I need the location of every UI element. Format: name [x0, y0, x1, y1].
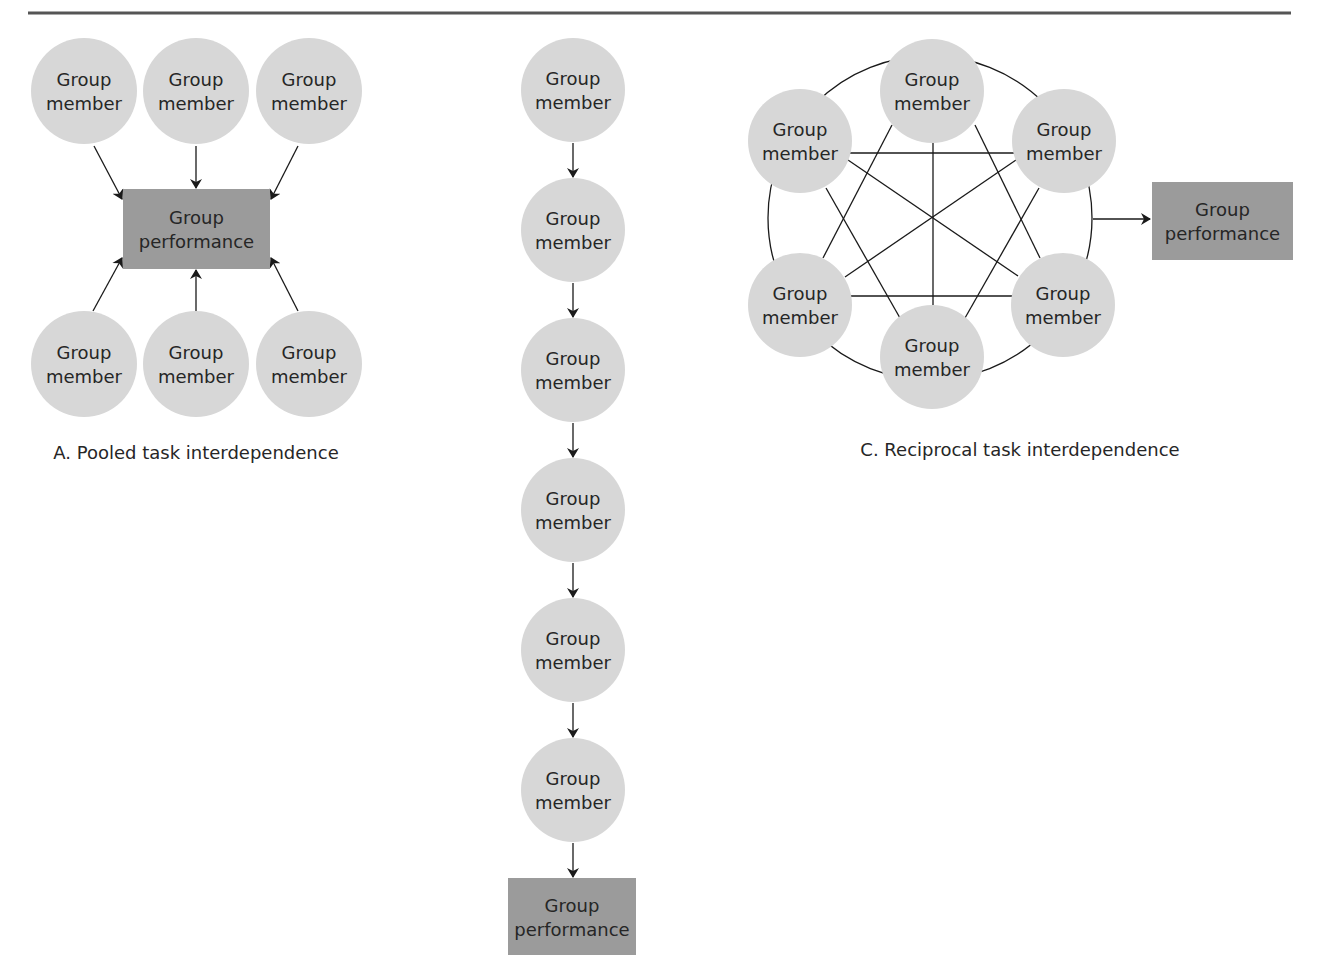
group-member-node: Groupmember — [31, 38, 137, 144]
member-circle — [1011, 253, 1115, 357]
member-circle — [1012, 89, 1116, 193]
diagram-sequential: GroupmemberGroupmemberGroupmemberGroupme… — [508, 38, 636, 955]
caption-pooled: A. Pooled task interdependence — [53, 442, 338, 463]
group-member-node: Groupmember — [1012, 89, 1116, 193]
group-member-node: Groupmember — [143, 311, 249, 417]
group-member-node: Groupmember — [748, 253, 852, 357]
group-member-node: Groupmember — [521, 318, 625, 422]
performance-rect — [123, 189, 270, 269]
member-circle — [31, 38, 137, 144]
group-member-node: Groupmember — [31, 311, 137, 417]
flow-arrow — [271, 258, 298, 311]
member-circle — [256, 311, 362, 417]
member-circle — [521, 318, 625, 422]
group-member-node: Groupmember — [521, 38, 625, 142]
group-performance-box: Groupperformance — [1152, 182, 1293, 260]
group-member-node: Groupmember — [256, 38, 362, 144]
connector-layer — [93, 56, 1150, 877]
performance-rect — [1152, 182, 1293, 260]
diagram-reciprocal: GroupmemberGroupmemberGroupmemberGroupme… — [748, 39, 1293, 409]
caption-reciprocal: C. Reciprocal task interdependence — [860, 439, 1179, 460]
diagram-pooled: GroupmemberGroupmemberGroupmemberGroupme… — [31, 38, 362, 417]
member-circle — [143, 38, 249, 144]
group-member-node: Groupmember — [521, 458, 625, 562]
group-performance-box: Groupperformance — [123, 189, 270, 269]
group-member-node: Groupmember — [256, 311, 362, 417]
flow-arrow — [271, 146, 298, 199]
member-circle — [880, 305, 984, 409]
member-circle — [748, 253, 852, 357]
task-interdependence-figure: GroupmemberGroupmemberGroupmemberGroupme… — [0, 0, 1322, 976]
node-layer: GroupmemberGroupmemberGroupmemberGroupme… — [31, 38, 1293, 955]
group-member-node: Groupmember — [521, 178, 625, 282]
group-member-node: Groupmember — [1011, 253, 1115, 357]
member-circle — [521, 738, 625, 842]
member-circle — [256, 38, 362, 144]
group-member-node: Groupmember — [521, 738, 625, 842]
caption-layer: A. Pooled task interdependenceC. Recipro… — [53, 439, 1179, 463]
group-member-node: Groupmember — [880, 39, 984, 143]
performance-rect — [508, 878, 636, 955]
group-member-node: Groupmember — [748, 89, 852, 193]
flow-arrow — [93, 258, 122, 311]
member-circle — [748, 89, 852, 193]
member-circle — [143, 311, 249, 417]
group-member-node: Groupmember — [143, 38, 249, 144]
member-circle — [521, 598, 625, 702]
flow-arrow — [94, 146, 122, 199]
group-member-node: Groupmember — [880, 305, 984, 409]
member-circle — [521, 178, 625, 282]
member-circle — [521, 38, 625, 142]
group-member-node: Groupmember — [521, 598, 625, 702]
member-circle — [880, 39, 984, 143]
group-performance-box: Groupperformance — [508, 878, 636, 955]
connection-line — [845, 160, 1016, 277]
member-circle — [521, 458, 625, 562]
member-circle — [31, 311, 137, 417]
